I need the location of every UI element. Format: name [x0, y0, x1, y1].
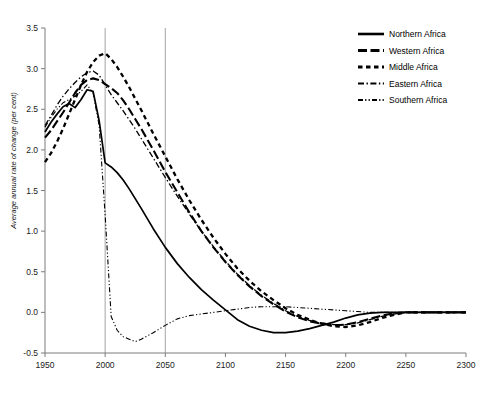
- series-line-eastern-africa: [45, 71, 466, 325]
- x-tick-label-3: 2100: [216, 360, 235, 370]
- x-tick-label-2: 2050: [156, 360, 175, 370]
- legend-label-2: Middle Africa: [389, 62, 438, 72]
- y-tick-label-5: 2.0: [26, 145, 38, 155]
- y-tick-label-6: 2.5: [26, 104, 38, 114]
- chart-container: -0.50.00.51.01.52.02.53.03.5195020002050…: [0, 0, 480, 395]
- legend-label-1: Western Africa: [389, 46, 444, 56]
- line-chart: -0.50.00.51.01.52.02.53.03.5195020002050…: [0, 0, 480, 395]
- grid-group: [105, 28, 165, 353]
- x-tick-label-4: 2150: [276, 360, 295, 370]
- y-tick-label-2: 0.5: [26, 267, 38, 277]
- y-axis-title: Average annual rate of change (per cent): [9, 92, 18, 230]
- x-tick-label-6: 2250: [396, 360, 415, 370]
- legend-label-3: Eastern Africa: [389, 79, 442, 89]
- legend-label-0: Northern Africa: [389, 29, 446, 39]
- legend-label-4: Southern Africa: [389, 95, 447, 105]
- x-tick-label-0: 1950: [36, 360, 55, 370]
- x-tick-label-1: 2000: [96, 360, 115, 370]
- y-tick-label-7: 3.0: [26, 64, 38, 74]
- y-tick-label-3: 1.0: [26, 226, 38, 236]
- series-line-northern-africa: [45, 90, 466, 333]
- y-tick-label-0: -0.5: [23, 348, 38, 358]
- y-tick-label-4: 1.5: [26, 186, 38, 196]
- x-tick-label-7: 2300: [457, 360, 476, 370]
- series-line-western-africa: [45, 78, 466, 325]
- y-tick-label-1: 0.0: [26, 307, 38, 317]
- y-tick-label-8: 3.5: [26, 23, 38, 33]
- series-line-southern-africa: [45, 85, 466, 342]
- x-tick-label-5: 2200: [336, 360, 355, 370]
- axis-group: -0.50.00.51.01.52.02.53.03.5195020002050…: [23, 23, 475, 370]
- chart-legend: Northern AfricaWestern AfricaMiddle Afri…: [358, 29, 447, 105]
